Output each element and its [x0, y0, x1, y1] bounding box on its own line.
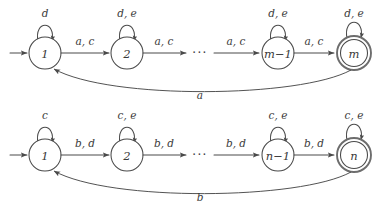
self-loop-label-m-q2: d, e — [117, 7, 137, 19]
state-label-m-qm-1: m−1 — [264, 47, 292, 61]
state-label-n-q2: 2 — [122, 149, 130, 163]
state-label-n-qn-1: n−1 — [266, 149, 290, 163]
transition-label-n-t1: b, d — [75, 137, 95, 149]
top-automaton: d 1 a, c d, e 2 a, c ··· — [10, 7, 371, 101]
bottom-automaton: c 1 b, d c, e 2 b, d ··· — [10, 109, 371, 203]
state-label-m-q1: 1 — [41, 47, 48, 61]
ellipsis-top: ··· — [192, 46, 208, 60]
transition-label-n-t4: b, d — [304, 137, 324, 149]
transition-label-m-t4: a, c — [305, 35, 324, 47]
self-loop-label-m-qm: d, e — [344, 7, 364, 19]
transition-label-n-t2: b, d — [154, 137, 174, 149]
state-label-m-qm: m — [349, 47, 360, 61]
state-m-q2[interactable]: 2 — [111, 37, 143, 69]
self-loop-label-m-q1: d — [42, 7, 49, 19]
self-loop-label-m-qm-1: d, e — [268, 7, 288, 19]
self-loop-label-n-qn-1: c, e — [269, 109, 288, 121]
automata-diagram: d 1 a, c d, e 2 a, c ··· — [0, 0, 382, 208]
transition-label-m-t3: a, c — [227, 35, 246, 47]
state-label-n-q1: 1 — [41, 149, 48, 163]
transition-label-m-t2: a, c — [155, 35, 174, 47]
figure-canvas: d 1 a, c d, e 2 a, c ··· — [0, 0, 382, 208]
transition-label-m-t1: a, c — [76, 35, 95, 47]
ellipsis-bottom: ··· — [192, 148, 208, 162]
state-n-q2[interactable]: 2 — [111, 139, 143, 171]
self-loop-label-n-qn: c, e — [345, 109, 364, 121]
state-m-qm-1[interactable]: m−1 — [262, 37, 294, 69]
state-n-q1[interactable]: 1 — [29, 139, 61, 171]
transition-label-n-t3: b, d — [226, 137, 246, 149]
state-n-qn-1[interactable]: n−1 — [262, 139, 294, 171]
self-loop-label-n-q2: c, e — [118, 109, 137, 121]
self-loop-label-n-q1: c — [42, 109, 48, 121]
state-label-m-q2: 2 — [122, 47, 130, 61]
state-m-q1[interactable]: 1 — [29, 37, 61, 69]
return-edge-label-n-return: b — [197, 191, 204, 203]
state-label-n-qn: n — [350, 149, 357, 163]
state-n-qn[interactable]: n — [337, 138, 371, 172]
return-edge-label-m-return: a — [197, 89, 203, 101]
state-m-qm[interactable]: m — [337, 36, 371, 70]
